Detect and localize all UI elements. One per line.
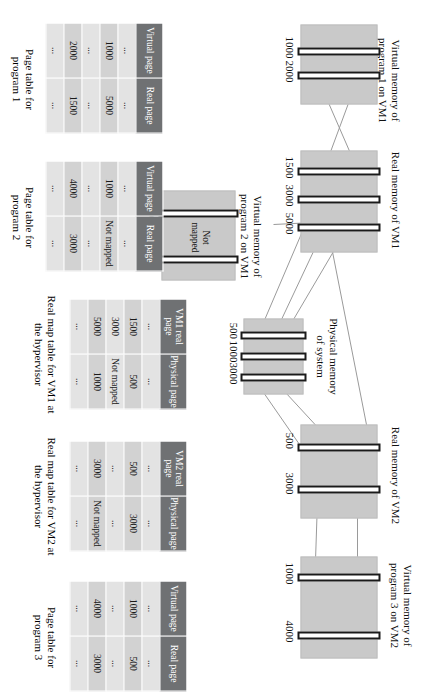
table-row: ...... — [46, 23, 64, 133]
table-row: ...... — [106, 441, 124, 551]
table-row: ...... — [70, 299, 88, 409]
table-row: ...... — [118, 161, 136, 271]
caption-real-map-table-vm2: Real map table for VM2 at the hypervisor — [32, 418, 57, 574]
col-header-vm2-real-page: VM2 real page — [160, 441, 187, 496]
table-row: 1000500 — [124, 581, 142, 691]
memory-page — [240, 352, 306, 360]
col-header-real-page: Real page — [160, 636, 187, 691]
memory-block-vm1-prog2-virtual: Not mapped — [161, 190, 235, 280]
memory-page — [297, 485, 380, 493]
page-label-physical-1000: 1000 — [227, 340, 240, 362]
memory-page — [297, 167, 380, 175]
table-row: ...... — [118, 23, 136, 133]
memory-block-vm1-real — [300, 150, 377, 252]
table-row: ...... — [142, 581, 160, 691]
caption-physical-memory: Physical memory of system — [314, 296, 339, 416]
col-header-physical-page: Physical page — [160, 354, 187, 409]
memory-block-vm2-prog3-virtual — [300, 556, 377, 658]
memory-page — [297, 443, 380, 451]
table-page-table-program-1: Virtual page Real page ...... 10005000 .… — [45, 22, 163, 133]
table-page-table-program-2: Virtual page Real page ...... 1000Not ma… — [45, 160, 163, 271]
table-row: ...... — [70, 441, 88, 551]
memory-page — [297, 47, 380, 55]
table-row: 3000Not mapped — [106, 299, 124, 409]
caption-page-table-program-1: Page table for program 1 — [10, 14, 35, 144]
table-real-map-table-vm2: VM2 real page Physical page ...... 50030… — [69, 440, 187, 551]
table-row: 3000Not mapped — [88, 441, 106, 551]
memory-page — [297, 195, 380, 203]
table-row: ...... — [106, 581, 124, 691]
table-page-table-program-3: Virtual page Real page ...... 1000500 ..… — [69, 580, 187, 691]
figure-canvas: Virtual memory of program 1 on VM1 1000 … — [0, 0, 435, 693]
page-label-vm1-real-1500: 1500 — [283, 156, 296, 178]
memory-block-physical-memory — [243, 318, 303, 394]
table-row: 50001000 — [88, 299, 106, 409]
table-row: ...... — [142, 441, 160, 551]
table-row: 1500500 — [124, 299, 142, 409]
memory-page — [240, 373, 306, 381]
table-real-map-table-vm1: VM1 real page Physical page ...... 15005… — [69, 298, 187, 409]
figure-root: Virtual memory of program 1 on VM1 1000 … — [0, 0, 435, 693]
memory-page — [297, 631, 380, 639]
col-header-vm1-real-page: VM1 real page — [160, 299, 187, 354]
caption-page-table-program-2: Page table for program 2 — [10, 152, 35, 282]
table-row: ...... — [70, 581, 88, 691]
memory-page — [297, 573, 380, 581]
col-header-real-page: Real page — [136, 78, 163, 133]
col-header-physical-page: Physical page — [160, 496, 187, 551]
table-row: ...... — [82, 161, 100, 271]
page-label-physical-500: 500 — [227, 322, 240, 339]
caption-vm1-prog2-virtual: Virtual memory of program 2 on VM1 — [238, 176, 263, 296]
page-label-vm2-real-3000: 3000 — [283, 472, 296, 494]
table-row: ...... — [82, 23, 100, 133]
table-row: 40003000 — [88, 581, 106, 691]
memory-page — [297, 71, 380, 79]
page-label-vm1-prog1-2000: 2000 — [283, 60, 296, 82]
col-header-virtual-page: Virtual page — [136, 161, 163, 216]
caption-vm1-real: Real memory of VM1 — [389, 140, 402, 260]
page-label-vm1-real-3000: 3000 — [283, 184, 296, 206]
col-header-virtual-page: Virtual page — [136, 23, 163, 78]
page-label-physical-3000: 3000 — [227, 362, 240, 384]
col-header-virtual-page: Virtual page — [160, 581, 187, 636]
table-row: 40003000 — [64, 161, 82, 271]
table-row: ...... — [142, 299, 160, 409]
inline-note-not-mapped: Not mapped — [189, 217, 210, 257]
page-label-vm2-prog3-4000: 4000 — [283, 620, 296, 642]
table-row: ...... — [46, 161, 64, 271]
memory-page — [240, 331, 306, 339]
memory-block-vm1-prog1-virtual — [300, 24, 377, 104]
table-row: 10005000 — [100, 23, 118, 133]
caption-real-map-table-vm1: Real map table for VM1 at the hypervisor — [32, 276, 57, 432]
caption-vm2-prog3-virtual: Virtual memory of program 3 on VM2 — [388, 540, 413, 670]
table-row: 5003000 — [124, 441, 142, 551]
memory-page — [297, 223, 380, 231]
table-row: 1000Not mapped — [100, 161, 118, 271]
caption-vm1-prog1-virtual: Virtual memory of program 1 on VM1 — [376, 20, 401, 140]
page-label-vm2-real-500: 500 — [283, 432, 296, 449]
memory-block-vm2-real — [300, 424, 377, 518]
col-header-real-page: Real page — [136, 216, 163, 271]
caption-page-table-program-3: Page table for program 3 — [32, 572, 57, 693]
page-label-vm1-prog1-1000: 1000 — [283, 36, 296, 58]
page-label-vm2-prog3-1000: 1000 — [283, 562, 296, 584]
page-label-vm1-real-5000: 5000 — [283, 212, 296, 234]
table-row: 20001500 — [64, 23, 82, 133]
memory-page — [158, 209, 238, 217]
caption-vm2-real: Real memory of VM2 — [389, 410, 402, 540]
